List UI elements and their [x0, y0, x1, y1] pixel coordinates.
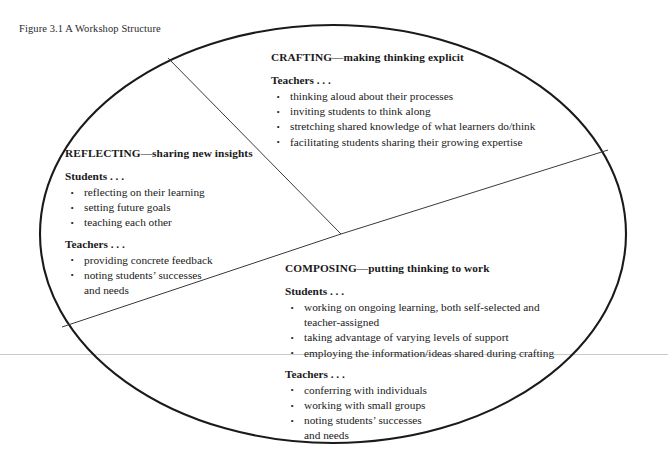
list-item: noting students’ successes and needs — [65, 268, 280, 298]
list-item: providing concrete feedback — [65, 253, 280, 268]
list-item: inviting students to think along — [271, 104, 601, 119]
sector-crafting: CRAFTING—making thinking explicit Teache… — [271, 50, 601, 150]
divider-right — [341, 150, 608, 234]
crafting-teachers-list: thinking aloud about their processes inv… — [271, 89, 601, 150]
reflecting-teachers-list: providing concrete feedback noting stude… — [65, 253, 280, 299]
reflecting-teachers-label: Teachers . . . — [65, 237, 280, 252]
workshop-structure-figure: Figure 3.1 A Workshop Structure CRAFTING… — [0, 0, 668, 472]
composing-teachers-label: Teachers . . . — [285, 367, 600, 382]
reflecting-students-label: Students . . . — [65, 169, 280, 184]
list-item: teaching each other — [65, 215, 280, 230]
list-item: stretching shared knowledge of what lear… — [271, 119, 601, 134]
list-item: taking advantage of varying levels of su… — [285, 330, 600, 345]
reflecting-students-list: reflecting on their learning setting fut… — [65, 185, 280, 231]
list-item: conferring with individuals — [285, 383, 600, 398]
list-item-line1: noting students’ successes — [304, 414, 422, 426]
list-item-line1: noting students’ successes — [84, 269, 202, 281]
figure-caption: Figure 3.1 A Workshop Structure — [19, 22, 161, 36]
composing-teachers-list: conferring with individuals working with… — [285, 383, 600, 444]
list-item: thinking aloud about their processes — [271, 89, 601, 104]
sector-reflecting: REFLECTING—sharing new insights Students… — [65, 146, 280, 298]
composing-students-list: working on ongoing learning, both self-s… — [285, 300, 600, 361]
sector-composing-heading: COMPOSING—putting thinking to work — [285, 261, 600, 275]
list-item-line1: working on ongoing learning, both self-s… — [304, 301, 540, 313]
list-item: noting students’ successes and needs — [285, 413, 600, 443]
list-item-line2: and needs — [304, 428, 600, 443]
list-item-line2: and needs — [84, 283, 280, 298]
list-item: working with small groups — [285, 398, 600, 413]
sector-composing: COMPOSING—putting thinking to work Stude… — [285, 261, 600, 444]
list-item: reflecting on their learning — [65, 185, 280, 200]
crafting-teachers-label: Teachers . . . — [271, 73, 601, 88]
list-item: employing the information/ideas shared d… — [285, 346, 600, 361]
list-item-line2: teacher-assigned — [304, 315, 600, 330]
sector-crafting-heading: CRAFTING—making thinking explicit — [271, 50, 601, 64]
list-item: facilitating students sharing their grow… — [271, 135, 601, 150]
list-item: setting future goals — [65, 200, 280, 215]
composing-students-label: Students . . . — [285, 284, 600, 299]
list-item: working on ongoing learning, both self-s… — [285, 300, 600, 330]
sector-reflecting-heading: REFLECTING—sharing new insights — [65, 146, 280, 160]
